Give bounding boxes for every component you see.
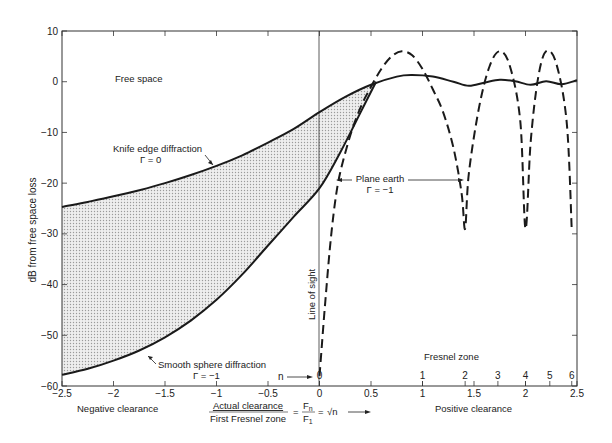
plane-earth-right-arrowhead-icon: [458, 178, 464, 182]
x-axis-fn: Fn: [303, 400, 313, 412]
n-marker-arrowhead-icon: [307, 375, 313, 379]
x-tick-label: −2: [108, 388, 120, 399]
y-tick-label: 10: [47, 26, 59, 37]
y-tick-label: 0: [52, 76, 58, 87]
x-axis-direction-arrowhead-icon: [365, 410, 371, 414]
y-axis-title: dB from free space loss: [27, 177, 38, 282]
x-axis-equals-2: =: [318, 406, 324, 417]
y-tick-label: −30: [41, 228, 58, 239]
shaded-region: [62, 82, 376, 375]
x-axis-formula: Actual clearance First Fresnel zone = Fn…: [209, 400, 371, 425]
y-tick-label: −60: [41, 381, 58, 392]
x-tick-label: 1: [420, 388, 426, 399]
x-axis-numerator: Actual clearance: [213, 400, 283, 411]
smooth-sphere-gamma-label: Γ = −1: [193, 370, 220, 381]
knife-edge-arrowhead-icon: [208, 160, 213, 165]
fresnel-tick-label: 3: [495, 370, 501, 381]
fresnel-tick-label: 4: [523, 370, 529, 381]
smooth-sphere-arrowhead-icon: [148, 356, 153, 360]
knife-edge-label: Knife edge diffraction: [113, 143, 202, 154]
x-tick-label: −1: [211, 388, 223, 399]
x-tick-label: −1.5: [155, 388, 175, 399]
x-tick-label: 1.5: [467, 388, 481, 399]
fresnel-tick-label: 5: [547, 370, 553, 381]
plane-earth-label: Plane earth: [356, 173, 405, 184]
smooth-sphere-label: Smooth sphere diffraction: [158, 359, 266, 370]
chart-canvas: −2.5−2−1.5−1−0.500.511.522.5 100−10−20−3…: [0, 0, 612, 443]
fresnel-zone-ticks: 0123456: [317, 370, 575, 386]
fresnel-tick-label: 6: [569, 370, 575, 381]
x-tick-label: 0: [317, 388, 323, 399]
plane-earth-gamma-label: Γ = −1: [367, 184, 394, 195]
knife-edge-gamma-label: Γ = 0: [140, 154, 161, 165]
y-tick-label: −20: [41, 178, 58, 189]
fresnel-zone-title: Fresnel zone: [424, 351, 479, 362]
y-tick-label: −40: [41, 279, 58, 290]
fresnel-tick-label: 2: [462, 370, 468, 381]
positive-clearance-label: Positive clearance: [435, 403, 512, 414]
x-tick-label: 2.5: [570, 388, 584, 399]
x-tick-label: 2: [523, 388, 529, 399]
x-tick-label: 0.5: [364, 388, 378, 399]
x-tick-label: −0.5: [258, 388, 278, 399]
x-axis-f1: F1: [303, 413, 313, 425]
negative-clearance-label: Negative clearance: [77, 403, 158, 414]
x-axis-sqrt-n: √n: [327, 406, 338, 417]
line-of-sight-label: Line of sight: [306, 268, 317, 320]
fresnel-tick-label: 1: [420, 370, 426, 381]
y-tick-label: −50: [41, 330, 58, 341]
y-tick-label: −10: [41, 127, 58, 138]
x-axis-denominator: First Fresnel zone: [210, 413, 286, 424]
free-space-label: Free space: [115, 73, 163, 84]
n-marker-label: n: [278, 371, 284, 382]
x-axis-equals-1: =: [293, 406, 299, 417]
